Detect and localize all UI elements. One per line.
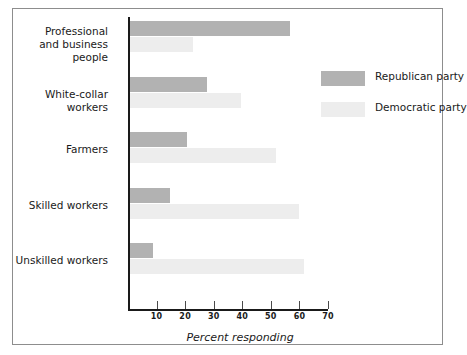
x-axis-tick-label: 20 — [179, 312, 191, 321]
bar-democratic — [130, 93, 241, 108]
x-axis-tick-label: 70 — [322, 312, 334, 321]
x-axis-tick-label: 40 — [237, 312, 249, 321]
x-axis-tick-label: 50 — [265, 312, 277, 321]
x-axis-tick — [271, 301, 272, 309]
x-axis-tick — [328, 301, 329, 309]
category-label: White-collar workers — [13, 88, 108, 114]
category-label: Unskilled workers — [16, 254, 108, 267]
x-axis-tick — [214, 301, 215, 309]
legend-label: Democratic party — [375, 101, 467, 113]
x-axis-tick — [299, 301, 300, 309]
category-label: Skilled workers — [29, 199, 108, 212]
category-label: Professional and business people — [13, 25, 108, 64]
democratic-swatch — [321, 102, 365, 117]
bar-democratic — [130, 204, 299, 219]
x-axis-tick — [157, 301, 158, 309]
x-axis-title: Percent responding — [140, 331, 340, 344]
bar-democratic — [130, 259, 304, 274]
x-axis-tick-label: 30 — [208, 312, 220, 321]
bar-republican — [130, 132, 187, 147]
bar-republican — [130, 243, 153, 258]
legend-label: Republican party — [375, 70, 464, 82]
bar-republican — [130, 21, 290, 36]
chart-frame: 10203040506070 Professional and business… — [12, 8, 443, 345]
x-axis-tick — [185, 301, 186, 309]
x-axis-tick — [242, 301, 243, 309]
category-label: Farmers — [66, 143, 108, 156]
bar-democratic — [130, 37, 193, 52]
plot-area: 10203040506070 — [128, 12, 341, 307]
value-axis-line — [128, 309, 328, 311]
bar-republican — [130, 77, 207, 92]
x-axis-tick-label: 60 — [294, 312, 306, 321]
republican-swatch — [321, 71, 365, 86]
bar-republican — [130, 188, 170, 203]
x-axis-tick-label: 10 — [151, 312, 163, 321]
bar-democratic — [130, 148, 276, 163]
